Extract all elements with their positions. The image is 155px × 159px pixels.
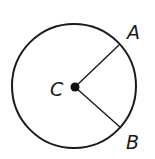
radius-cb [75, 87, 121, 128]
center-label: C [50, 78, 64, 100]
radius-ca [75, 45, 119, 87]
circle-diagram: C A B [0, 0, 155, 159]
point-a-label: A [125, 21, 140, 43]
point-b-label: B [126, 131, 139, 153]
center-point [71, 83, 80, 92]
